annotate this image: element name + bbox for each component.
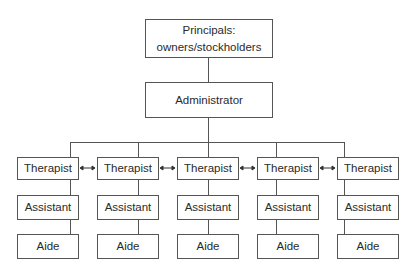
principals-box: Principals: owners/stockholders — [145, 19, 273, 58]
therapist-label: Therapist — [104, 160, 152, 177]
double-arrow-icon — [240, 166, 255, 170]
assistant-label: Assistant — [25, 199, 72, 216]
aide-label: Aide — [116, 238, 139, 255]
aide-box-4: Aide — [257, 234, 319, 259]
assistant-box-4: Assistant — [257, 195, 319, 220]
assistant-label: Assistant — [345, 199, 392, 216]
aide-box-5: Aide — [337, 234, 399, 259]
therapist-label: Therapist — [24, 160, 72, 177]
therapist-label: Therapist — [264, 160, 312, 177]
therapist-box-3: Therapist — [177, 157, 239, 180]
principals-line1: Principals: — [182, 22, 235, 39]
aide-label: Aide — [356, 238, 379, 255]
assistant-box-5: Assistant — [337, 195, 399, 220]
assistant-label: Assistant — [265, 199, 312, 216]
aide-box-1: Aide — [17, 234, 79, 259]
administrator-box: Administrator — [145, 82, 273, 118]
assistant-box-2: Assistant — [97, 195, 159, 220]
administrator-label: Administrator — [175, 92, 243, 109]
therapist-box-1: Therapist — [17, 157, 79, 180]
principals-line2: owners/stockholders — [157, 39, 262, 56]
therapist-label: Therapist — [344, 160, 392, 177]
assistant-box-3: Assistant — [177, 195, 239, 220]
therapist-box-2: Therapist — [97, 157, 159, 180]
therapist-label: Therapist — [184, 160, 232, 177]
double-arrow-icon — [160, 166, 175, 170]
assistant-box-1: Assistant — [17, 195, 79, 220]
aide-label: Aide — [276, 238, 299, 255]
aide-label: Aide — [36, 238, 59, 255]
assistant-label: Assistant — [105, 199, 152, 216]
double-arrow-icon — [80, 166, 95, 170]
therapist-box-5: Therapist — [337, 157, 399, 180]
assistant-label: Assistant — [185, 199, 232, 216]
aide-box-2: Aide — [97, 234, 159, 259]
therapist-box-4: Therapist — [257, 157, 319, 180]
double-arrow-icon — [320, 166, 335, 170]
aide-box-3: Aide — [177, 234, 239, 259]
aide-label: Aide — [196, 238, 219, 255]
